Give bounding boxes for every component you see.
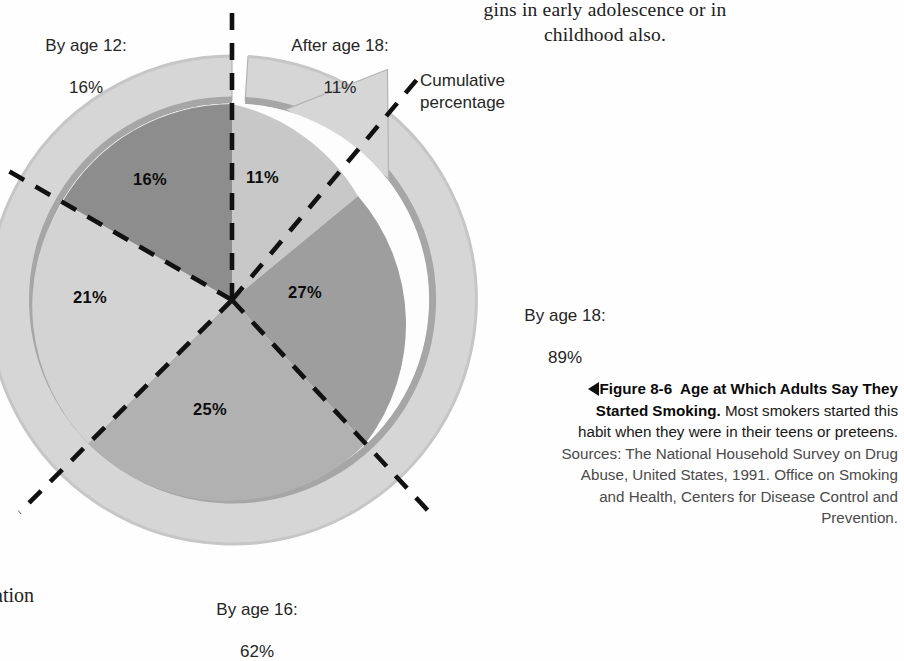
- callout-by-age-16-value: 62%: [172, 641, 342, 661]
- callout-by-age-18: By age 18: 89%: [490, 284, 640, 389]
- slice-label-16: 16%: [133, 170, 167, 189]
- callout-by-age-12: By age 12: 16%: [0, 14, 176, 119]
- slice-label-25: 25%: [193, 400, 227, 419]
- callout-by-age-18-value: 89%: [490, 347, 640, 368]
- callout-by-age-12-title: By age 12:: [0, 35, 176, 56]
- cumulative-percentage-label: Cumulative percentage: [420, 70, 580, 114]
- caption-figure-number: Figure 8-6: [600, 380, 673, 397]
- callout-by-age-18-title: By age 18:: [490, 305, 640, 326]
- callout-by-age-12-value: 16%: [0, 77, 176, 98]
- callout-after-age-18-value: 11%: [250, 77, 430, 98]
- slice-label-11: 11%: [246, 168, 279, 187]
- slice-label-27: 27%: [288, 283, 322, 302]
- callout-by-age-16: By age 16: 62%: [172, 578, 342, 661]
- figure-caption: Figure 8-6 Age at Which Adults Say They …: [560, 378, 898, 529]
- caption-sources-label: Sources:: [561, 445, 621, 462]
- callout-after-age-18: After age 18: 11%: [250, 14, 430, 119]
- caption-sources: The National Household Survey on Drug Ab…: [581, 445, 898, 527]
- left-triangle-icon: [588, 382, 599, 396]
- callout-by-age-16-title: By age 16:: [172, 599, 342, 620]
- page-text-fragment: ation: [0, 584, 34, 607]
- callout-after-age-18-title: After age 18:: [250, 35, 430, 56]
- slice-label-21: 21%: [73, 288, 107, 307]
